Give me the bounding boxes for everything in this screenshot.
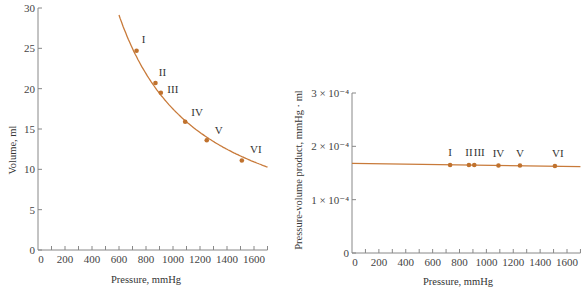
point-label-IV: IV (493, 147, 505, 159)
x-tick-label: 1400 (216, 253, 239, 265)
point-label-VI: VI (552, 147, 564, 159)
x-tick-label: 400 (84, 253, 101, 265)
x-tick-label: 200 (371, 256, 388, 268)
data-point-VI (553, 164, 558, 169)
x-tick-label: 1600 (556, 256, 579, 268)
data-point-IV (496, 163, 501, 168)
y-tick-label: 25 (24, 42, 36, 54)
y-tick-label: 5 (30, 204, 36, 216)
point-label-V: V (215, 124, 223, 136)
data-point-V (518, 163, 523, 168)
right-x-axis: 02004006008001000120014001600 (352, 249, 580, 268)
data-point-I (134, 48, 139, 53)
x-tick-label: 600 (111, 253, 128, 265)
data-point-III (472, 163, 477, 168)
y-tick-label: 10 (24, 163, 36, 175)
right-x-axis-title: Pressure, mmHg (423, 276, 494, 287)
left-x-axis-title: Pressure, mmHg (111, 274, 182, 285)
y-tick-label: 0 (344, 247, 350, 259)
x-tick-label: 400 (398, 256, 415, 268)
x-tick-label: 800 (138, 253, 155, 265)
right-y-axis: 01 × 10⁻⁴2 × 10⁻⁴3 × 10⁻⁴ (311, 87, 356, 259)
point-label-I: I (448, 146, 452, 158)
charts-canvas: 051015202530 020040060080010001200140016… (0, 0, 582, 289)
point-label-IV: IV (191, 106, 203, 118)
x-tick-label: 600 (424, 256, 441, 268)
volume-vs-pressure-chart: 051015202530 020040060080010001200140016… (7, 2, 268, 285)
y-tick-label: 30 (24, 2, 36, 14)
x-tick-label: 1600 (243, 253, 266, 265)
x-tick-label: 1200 (189, 253, 212, 265)
y-tick-label: 0 (30, 244, 36, 256)
x-tick-label: 200 (57, 253, 74, 265)
right-pv-line (352, 163, 580, 166)
point-label-III: III (474, 146, 485, 158)
x-tick-label: 1400 (529, 256, 552, 268)
y-tick-label: 20 (24, 83, 36, 95)
point-label-I: I (142, 33, 146, 45)
point-label-II: II (465, 146, 473, 158)
data-point-I (448, 163, 453, 168)
right-y-axis-title: Pressure-volume product, mmHg · ml (293, 90, 304, 250)
y-tick-label: 1 × 10⁻⁴ (311, 194, 349, 206)
x-tick-label: 1200 (502, 256, 525, 268)
y-tick-label: 2 × 10⁻⁴ (311, 140, 349, 152)
data-point-II (467, 163, 472, 168)
x-tick-label: 1000 (475, 256, 498, 268)
left-y-axis: 051015202530 (24, 2, 42, 256)
point-label-V: V (516, 147, 524, 159)
x-tick-label: 0 (352, 256, 358, 268)
left-y-axis-title: Volume, ml (7, 126, 18, 175)
y-tick-label: 3 × 10⁻⁴ (311, 87, 349, 99)
y-tick-label: 15 (24, 123, 36, 135)
pv-product-chart: 01 × 10⁻⁴2 × 10⁻⁴3 × 10⁻⁴ 02004006008001… (293, 87, 580, 287)
data-point-V (204, 138, 209, 143)
x-tick-label: 1000 (162, 253, 185, 265)
data-point-III (159, 90, 164, 95)
point-label-VI: VI (250, 143, 262, 155)
left-data-points: IIIIIIIVVVI (134, 33, 262, 163)
point-label-II: II (159, 66, 167, 78)
point-label-III: III (167, 83, 178, 95)
data-point-II (153, 81, 158, 86)
left-x-axis: 02004006008001000120014001600 (38, 246, 268, 265)
x-tick-label: 800 (451, 256, 468, 268)
data-point-IV (183, 119, 188, 124)
data-point-VI (240, 158, 245, 163)
x-tick-label: 0 (38, 253, 44, 265)
